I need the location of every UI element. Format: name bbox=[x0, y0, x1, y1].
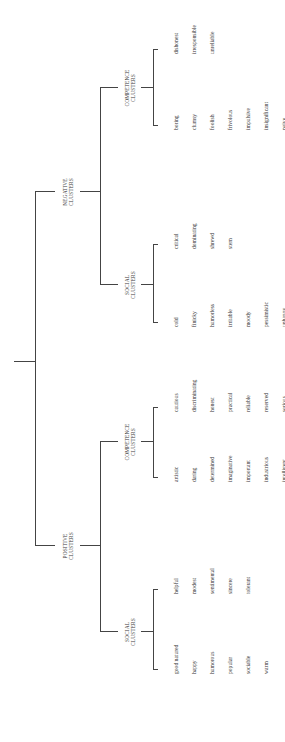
pos-social-words-a: helpful modest sentimental sincere toler… bbox=[161, 568, 263, 594]
pos-competence-words-a: cautious discriminating honest practical… bbox=[161, 380, 285, 412]
neg-social-label: SOCIAL CLUSTERS bbox=[124, 271, 136, 299]
positive-clusters-label: POSITIVE CLUSTERS bbox=[62, 532, 74, 560]
pos-social-bracket-tick-b bbox=[153, 669, 158, 670]
neg-competence-words-a: dishonest irresponsible unreliable bbox=[161, 25, 227, 54]
neg-competence-connector-b bbox=[141, 87, 153, 88]
neg-competence-connector-a bbox=[100, 87, 118, 88]
pos-competence-bracket bbox=[153, 408, 154, 478]
pos-social-bracket bbox=[153, 590, 154, 670]
root-stem bbox=[14, 361, 35, 362]
neg-social-bracket-tick-b bbox=[153, 322, 158, 323]
pos-social-label: SOCIAL CLUSTERS bbox=[124, 618, 136, 646]
neg-competence-label: COMPETENCE CLUSTERS bbox=[124, 70, 136, 107]
pos-social-words-b: good natured happy humorous popular soci… bbox=[161, 645, 281, 674]
negative-clusters-label: NEGATIVE CLUSTERS bbox=[62, 178, 74, 206]
neg-social-bracket-tick-a bbox=[153, 244, 158, 245]
neg-competence-words-b: boring clumsy foolish frivolous impulsiv… bbox=[161, 98, 285, 130]
negative-branch-bar bbox=[100, 88, 101, 285]
pos-competence-connector-a bbox=[100, 441, 118, 442]
pos-competence-bracket-tick-a bbox=[153, 407, 158, 408]
neg-social-bracket bbox=[153, 245, 154, 323]
neg-competence-bracket bbox=[153, 50, 154, 126]
neg-competence-bracket-tick-a bbox=[153, 49, 158, 50]
pos-competence-bracket-tick-b bbox=[153, 477, 158, 478]
root-trunk bbox=[35, 192, 36, 546]
negative-connector-a bbox=[35, 191, 55, 192]
pos-competence-words-b: artistic daring determined imaginative i… bbox=[161, 456, 285, 482]
pos-social-bracket-tick-a bbox=[153, 589, 158, 590]
pos-competence-label: COMPETENCE CLUSTERS bbox=[124, 424, 136, 461]
cluster-tree-diagram: NEGATIVE CLUSTERS COMPETENCE CLUSTERS di… bbox=[0, 0, 285, 742]
negative-connector-b bbox=[80, 191, 100, 192]
neg-social-connector-b bbox=[141, 284, 153, 285]
positive-branch-bar bbox=[100, 442, 101, 632]
pos-social-connector-b bbox=[141, 631, 153, 632]
neg-social-connector-a bbox=[100, 284, 118, 285]
neg-competence-bracket-tick-b bbox=[153, 125, 158, 126]
pos-competence-connector-b bbox=[141, 441, 153, 442]
pos-social-connector-a bbox=[100, 631, 118, 632]
positive-connector-a bbox=[35, 545, 55, 546]
neg-social-words-a: critical dominating shrewd stern bbox=[161, 224, 245, 249]
positive-connector-b bbox=[80, 545, 100, 546]
neg-social-words-b: cold finicky humorless irritable moody p… bbox=[161, 302, 285, 327]
